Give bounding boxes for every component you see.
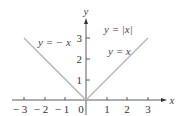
y-tick-label: 3 <box>77 32 83 44</box>
x-tick-label: 3 <box>145 103 151 115</box>
y-axis-label: y <box>83 5 89 17</box>
y-tick-label: 2 <box>77 53 83 65</box>
y-ticks <box>86 38 90 80</box>
x-tick-label: − 3 <box>13 103 28 115</box>
x-axis-arrow-icon <box>161 98 167 102</box>
x-tick-label: − 2 <box>34 103 48 115</box>
eq-label-x: y = x <box>107 45 131 57</box>
x-tick-label: − 1 <box>55 103 69 115</box>
y-axis-arrow-icon <box>84 18 88 24</box>
x-tick-label: 2 <box>124 103 130 115</box>
x-tick-label: 1 <box>104 103 110 115</box>
x-axis-label: x <box>169 94 175 106</box>
eq-label-abs-x: y = |x| <box>103 23 133 35</box>
eq-label-neg-x: y = − x <box>37 36 71 48</box>
x-tick-label: 0 <box>78 103 84 115</box>
y-tick-label: 1 <box>77 74 83 86</box>
abs-value-graph: − 3 − 2 − 1 0 1 2 3 1 2 3 x y y = − x y … <box>0 0 185 116</box>
